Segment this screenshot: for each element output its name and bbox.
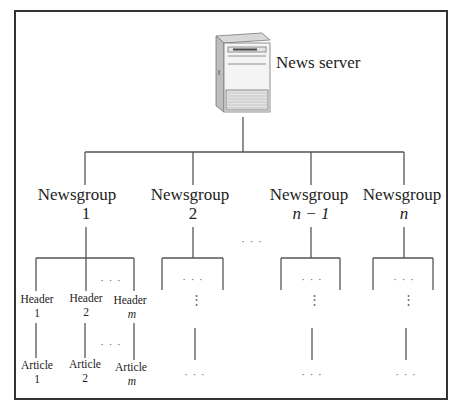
ngn-articles-ellipsis: · · · bbox=[391, 369, 421, 379]
article-1-label: Article bbox=[12, 359, 62, 372]
headers-ellipsis: · · · bbox=[96, 275, 126, 285]
header-1-label: Header bbox=[12, 293, 62, 306]
ngn1-articles-ellipsis: · · · bbox=[297, 369, 327, 379]
header-2-label: Header bbox=[61, 292, 111, 305]
newsgroup-ellipsis: · · · bbox=[237, 236, 267, 246]
newsgroup-1-number: 1 bbox=[56, 205, 116, 222]
newsgroup-1-label: Newsgroup bbox=[22, 186, 132, 203]
article-2-index: 2 bbox=[60, 372, 110, 385]
header-1-index: 1 bbox=[12, 307, 62, 320]
ng2-headers-ellipsis: · · · bbox=[178, 274, 208, 284]
article-2-label: Article bbox=[60, 358, 110, 371]
newsgroup-n-number: n bbox=[374, 205, 434, 222]
newsgroup-n-minus-1-number: n − 1 bbox=[281, 205, 341, 222]
header-2-index: 2 bbox=[61, 306, 111, 319]
newsgroup-n-label: Newsgroup bbox=[347, 186, 457, 203]
article-1-index: 1 bbox=[12, 373, 62, 386]
newsgroup-2-number: 2 bbox=[163, 205, 223, 222]
newsgroup-2-label: Newsgroup bbox=[135, 186, 245, 203]
ngn-headers-ellipsis: · · · bbox=[389, 274, 419, 284]
article-m-index: m bbox=[107, 375, 157, 388]
ngn1-vertical-ellipsis: ⋮ bbox=[308, 292, 321, 308]
ngn1-headers-ellipsis: · · · bbox=[297, 274, 327, 284]
header-m-index: m bbox=[107, 308, 157, 321]
articles-ellipsis: · · · bbox=[96, 339, 126, 349]
ngn-vertical-ellipsis: ⋮ bbox=[402, 292, 415, 308]
news-server-label: News server bbox=[276, 54, 361, 72]
ng2-vertical-ellipsis: ⋮ bbox=[190, 292, 203, 308]
ng2-articles-ellipsis: · · · bbox=[180, 369, 210, 379]
article-m-label: Article bbox=[106, 361, 156, 374]
server-tower-icon bbox=[216, 33, 270, 112]
header-m-label: Header bbox=[105, 294, 155, 307]
